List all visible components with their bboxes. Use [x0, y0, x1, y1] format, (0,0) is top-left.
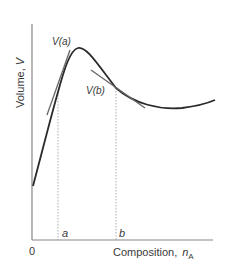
- marker-b: b: [119, 227, 125, 239]
- label-v-b: V(b): [86, 85, 105, 96]
- volume-curve: [33, 48, 215, 186]
- y-axis-label: Volume,V: [14, 56, 26, 108]
- origin-label: 0: [29, 245, 35, 257]
- x-axis-label: Composition,nA: [113, 246, 194, 261]
- label-v-a: V(a): [52, 36, 71, 47]
- tangent-line-a: [47, 50, 70, 115]
- volume-composition-diagram: Volume,V V(a) V(b) a b 0 Composition,nA: [0, 0, 228, 267]
- marker-a: a: [62, 227, 68, 239]
